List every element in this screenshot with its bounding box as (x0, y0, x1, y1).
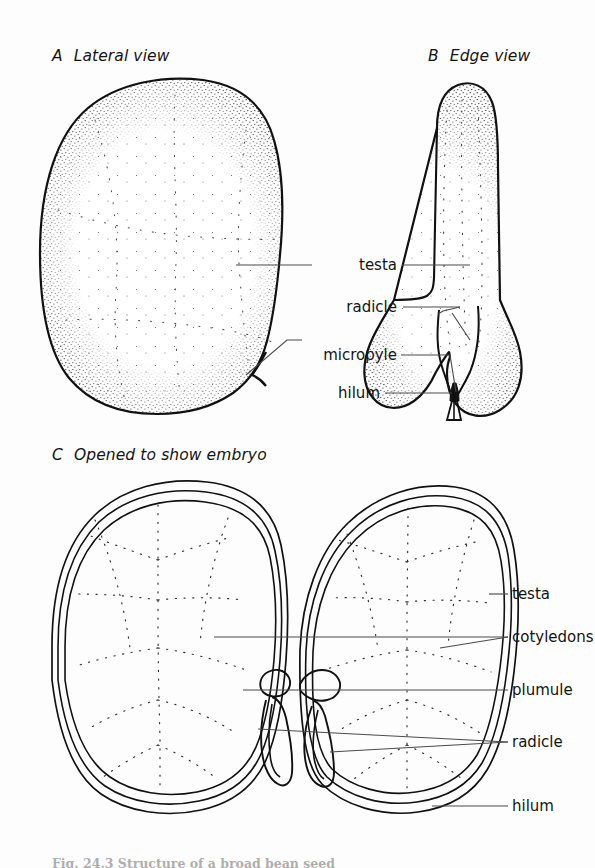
panel-c-tag: C (52, 446, 63, 464)
label-cotyledons: cotyledons (512, 630, 594, 645)
panel-c-right-cotyledon (300, 486, 518, 813)
panel-c-left-veins (76, 505, 246, 788)
panel-b-tag: B (428, 47, 439, 65)
panel-c-right-testa-mid (306, 496, 512, 803)
leader-c-radicle-left (258, 729, 508, 742)
panel-c-left-plumule (260, 670, 290, 697)
panel-b-title: Edge view (450, 47, 531, 65)
panel-c-left-cotyledon (52, 481, 292, 814)
label-micropyle-top: micropyle (323, 348, 397, 363)
label-plumule: plumule (512, 683, 573, 698)
panel-heading-c: COpened to show embryo (52, 446, 267, 464)
panel-c-right-testa-outer (300, 486, 518, 813)
label-hilum-top: hilum (338, 386, 380, 401)
panel-c-left-testa-mid (58, 491, 282, 804)
figure-caption: Fig. 24.3 Structure of a broad bean seed (52, 856, 335, 868)
label-testa-bottom: testa (512, 587, 550, 602)
leader-c-cotyledons-right (440, 637, 508, 648)
label-radicle-bottom: radicle (512, 735, 563, 750)
label-hilum-bottom: hilum (512, 799, 554, 814)
panel-c-title: Opened to show embryo (74, 446, 267, 464)
label-testa-top: testa (359, 258, 397, 273)
panel-c-left-testa-inner (65, 501, 276, 795)
panel-c-right-testa-inner (313, 506, 505, 794)
panel-a-title: Lateral view (74, 47, 170, 65)
panel-a-lateral-seed (30, 70, 300, 430)
figure-plate: ALateral view BEdge view COpened to show… (0, 0, 595, 868)
panel-b-edge-seed (355, 75, 535, 430)
panel-c-left-testa-outer (52, 481, 288, 814)
seed-diagram-svg (0, 0, 595, 868)
panel-heading-b: BEdge view (428, 47, 530, 65)
panel-heading-a: ALateral view (52, 47, 169, 65)
label-radicle-top: radicle (346, 300, 397, 315)
panel-a-tag: A (52, 47, 63, 65)
